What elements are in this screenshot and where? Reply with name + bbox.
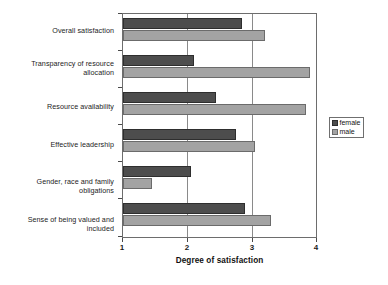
chart-legend: female male: [329, 117, 364, 138]
gridline-x3: [252, 14, 253, 237]
y-axis-tick: [118, 124, 122, 125]
x-axis-tick: [187, 238, 188, 242]
category-label: Overall satisfaction: [0, 26, 114, 35]
category-label: Resource availability: [0, 102, 114, 111]
bar-female: [123, 129, 236, 140]
y-axis-tick: [118, 161, 122, 162]
plot-area: [122, 13, 317, 238]
category-label: Transparency of resource allocation: [0, 59, 114, 77]
x-axis-tick-label: 3: [245, 243, 259, 252]
x-axis-tick: [252, 238, 253, 242]
bar-male: [123, 141, 255, 152]
bar-male: [123, 178, 152, 189]
legend-swatch-male-icon: [332, 129, 338, 135]
x-axis-tick: [316, 238, 317, 242]
bar-female: [123, 18, 242, 29]
bar-female: [123, 92, 216, 103]
chart-figure: Overall satisfaction Transparency of res…: [0, 0, 388, 285]
bar-female: [123, 203, 245, 214]
legend-item-female: female: [332, 119, 361, 128]
x-axis-tick-label: 4: [309, 243, 323, 252]
category-label: Effective leadership: [0, 140, 114, 149]
category-label: Gender, race and family obligations: [0, 177, 114, 195]
y-axis-category-labels: Overall satisfaction Transparency of res…: [0, 13, 118, 238]
plot-inner: [123, 14, 316, 237]
bar-male: [123, 104, 306, 115]
x-axis-tick: [122, 238, 123, 242]
legend-item-male: male: [332, 128, 361, 137]
legend-swatch-female-icon: [332, 120, 338, 126]
legend-label-male: male: [340, 128, 355, 137]
bar-female: [123, 55, 194, 66]
y-axis-tick: [118, 50, 122, 51]
bar-male: [123, 30, 265, 41]
x-axis-title: Degree of satisfaction: [122, 256, 317, 265]
bar-male: [123, 215, 271, 226]
y-axis-tick: [118, 87, 122, 88]
category-label: Sense of being valued and included: [0, 215, 114, 233]
y-axis-tick: [118, 13, 122, 14]
bar-female: [123, 166, 191, 177]
x-axis-tick-label: 2: [180, 243, 194, 252]
legend-label-female: female: [340, 119, 361, 128]
y-axis-tick: [118, 198, 122, 199]
bar-male: [123, 67, 310, 78]
y-axis-tick: [118, 236, 122, 237]
x-axis-tick-label: 1: [115, 243, 129, 252]
